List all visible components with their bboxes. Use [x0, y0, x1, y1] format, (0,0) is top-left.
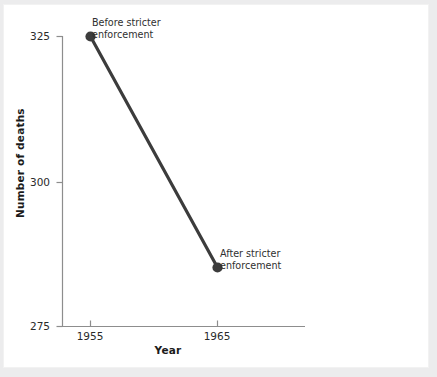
page-sheet: 325 300 275 1955 1965 Number of deaths Y…	[4, 5, 428, 367]
annotation-before-stricter-enforcement: Before stricter enforcement	[92, 17, 161, 42]
annotation-after-stricter-enforcement: After stricter enforcement	[220, 248, 281, 273]
x-axis-title: Year	[118, 344, 218, 356]
y-tick-label-325: 325	[16, 30, 50, 42]
line-chart-plot	[4, 5, 428, 367]
annotation-after-line1: After stricter	[220, 248, 281, 260]
annotation-before-line2: enforcement	[92, 29, 161, 41]
data-line-segment	[91, 37, 218, 268]
y-axis-title: Number of deaths	[14, 118, 26, 218]
annotation-after-line2: enforcement	[220, 260, 281, 272]
chart-figure: 325 300 275 1955 1965 Number of deaths Y…	[4, 5, 428, 367]
x-tick-label-1965: 1965	[194, 330, 240, 342]
annotation-before-line1: Before stricter	[92, 17, 161, 29]
y-tick-label-275: 275	[16, 320, 50, 332]
x-tick-label-1955: 1955	[67, 330, 113, 342]
